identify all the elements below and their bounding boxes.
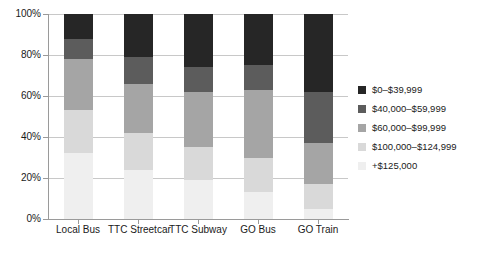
bar-stack [184, 14, 213, 219]
x-axis-tick-label: Local Bus [48, 224, 108, 236]
x-axis-tick [78, 220, 79, 224]
y-axis-tick [43, 14, 48, 15]
legend-item[interactable]: +$125,000 [358, 156, 476, 175]
stacked-bar-chart: 0%20%40%60%80%100% Local BusTTC Streetca… [0, 0, 478, 255]
bar-group[interactable] [244, 14, 273, 219]
bar-stack [64, 14, 93, 219]
legend-item[interactable]: $100,000–$124,999 [358, 137, 476, 156]
bar-segment[interactable] [304, 209, 333, 219]
legend-swatch-icon [358, 86, 366, 94]
legend-swatch-icon [358, 162, 366, 170]
bar-segment[interactable] [64, 14, 93, 39]
bar-group[interactable] [64, 14, 93, 219]
legend-item[interactable]: $0–$39,999 [358, 80, 476, 99]
y-axis-tick [43, 96, 48, 97]
bar-segment[interactable] [64, 110, 93, 153]
y-axis-tick [43, 219, 48, 220]
x-axis-tick-label: GO Train [288, 224, 348, 236]
legend-item-label: +$125,000 [372, 161, 417, 171]
y-axis-tick-label: 20% [1, 173, 41, 183]
bar-stack [124, 14, 153, 219]
x-axis-tick [198, 220, 199, 224]
bar-segment[interactable] [124, 133, 153, 170]
bar-segment[interactable] [244, 65, 273, 90]
y-axis: 0%20%40%60%80%100% [0, 14, 41, 219]
bar-segment[interactable] [304, 92, 333, 143]
y-axis-tick-label: 60% [1, 91, 41, 101]
legend-item-label: $0–$39,999 [372, 85, 422, 95]
bar-segment[interactable] [124, 14, 153, 57]
bar-segment[interactable] [184, 147, 213, 180]
x-axis-tick-label: TTC Streetcar [108, 224, 168, 236]
chart-legend: $0–$39,999$40,000–$59,999$60,000–$99,999… [358, 80, 476, 175]
legend-swatch-icon [358, 143, 366, 151]
bar-segment[interactable] [64, 153, 93, 219]
x-axis-tick-label: TTC Subway [168, 224, 228, 236]
bar-segment[interactable] [64, 59, 93, 110]
bar-segment[interactable] [304, 184, 333, 209]
bar-segment[interactable] [124, 84, 153, 133]
y-axis-tick-label: 80% [1, 50, 41, 60]
legend-swatch-icon [358, 124, 366, 132]
legend-swatch-icon [358, 105, 366, 113]
x-axis-tick [318, 220, 319, 224]
bar-segment[interactable] [304, 143, 333, 184]
y-axis-tick-label: 0% [1, 214, 41, 224]
legend-item-label: $40,000–$59,999 [372, 104, 446, 114]
x-axis: Local BusTTC StreetcarTTC SubwayGO BusGO… [48, 224, 348, 244]
y-axis-tick-label: 100% [1, 9, 41, 19]
legend-item[interactable]: $60,000–$99,999 [358, 118, 476, 137]
legend-item-label: $60,000–$99,999 [372, 123, 446, 133]
x-axis-tick [138, 220, 139, 224]
bar-segment[interactable] [244, 90, 273, 158]
bar-segment[interactable] [304, 14, 333, 92]
bar-stack [304, 14, 333, 219]
bar-segment[interactable] [184, 180, 213, 219]
bar-segment[interactable] [124, 57, 153, 84]
bar-segment[interactable] [184, 92, 213, 147]
bars-layer [48, 14, 348, 219]
bar-segment[interactable] [244, 158, 273, 193]
bar-stack [244, 14, 273, 219]
y-axis-tick-label: 40% [1, 132, 41, 142]
bar-segment[interactable] [184, 14, 213, 67]
bar-segment[interactable] [244, 192, 273, 219]
bar-group[interactable] [304, 14, 333, 219]
y-axis-tick [43, 55, 48, 56]
bar-segment[interactable] [244, 14, 273, 65]
x-axis-tick [258, 220, 259, 224]
y-axis-tick [43, 137, 48, 138]
bar-segment[interactable] [184, 67, 213, 92]
x-axis-tick-label: GO Bus [228, 224, 288, 236]
legend-item-label: $100,000–$124,999 [372, 142, 457, 152]
y-axis-tick [43, 178, 48, 179]
legend-item[interactable]: $40,000–$59,999 [358, 99, 476, 118]
bar-group[interactable] [124, 14, 153, 219]
bar-segment[interactable] [64, 39, 93, 60]
bar-segment[interactable] [124, 170, 153, 219]
bar-group[interactable] [184, 14, 213, 219]
